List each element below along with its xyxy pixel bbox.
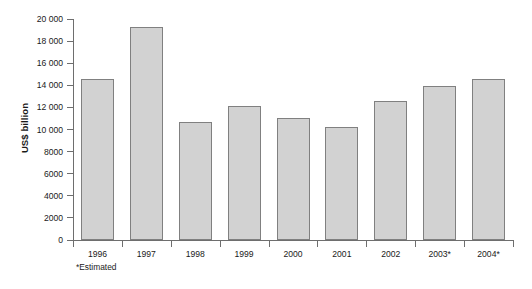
x-axis-tick-mark <box>269 241 270 247</box>
y-axis-tick: 8000 <box>0 146 73 158</box>
bar <box>81 79 114 240</box>
y-axis-tick: 18 000 <box>0 35 73 47</box>
y-axis-tick: 12 000 <box>0 101 73 113</box>
y-axis-tick-label: 12 000 <box>37 101 63 113</box>
y-axis-tick-mark <box>67 19 73 20</box>
x-axis-tick-label: 2003* <box>415 249 464 260</box>
x-axis-end-cap <box>513 240 514 247</box>
y-axis-tick-label: 16 000 <box>37 57 63 69</box>
bar-slot <box>81 19 114 240</box>
y-axis-tick-mark <box>67 63 73 64</box>
bar <box>179 122 212 240</box>
x-axis-tick-mark <box>122 241 123 247</box>
x-axis-tick-label: 2000 <box>269 249 318 260</box>
y-axis-tick-label: 18 000 <box>37 35 63 47</box>
y-axis-tick-mark <box>67 173 73 174</box>
x-axis-tick-label: 2002 <box>366 249 415 260</box>
y-axis-tick-mark <box>67 195 73 196</box>
bar-slot <box>325 19 358 240</box>
x-axis-tick-mark <box>366 241 367 247</box>
y-axis-tick: 2000 <box>0 212 73 224</box>
y-axis-tick-mark <box>67 107 73 108</box>
y-axis-tick-label: 8000 <box>44 146 63 158</box>
bar <box>130 27 163 240</box>
bar <box>277 118 310 240</box>
bar-slot <box>277 19 310 240</box>
bar-slot <box>374 19 407 240</box>
x-axis-tick-mark <box>171 241 172 247</box>
y-axis-tick-mark <box>67 217 73 218</box>
bar-slot <box>423 19 456 240</box>
x-axis-tick-label: 2001 <box>317 249 366 260</box>
y-axis-tick: 4000 <box>0 190 73 202</box>
x-axis-tick-label: 1996 <box>73 249 122 260</box>
bar-slot <box>228 19 261 240</box>
x-axis-tick-mark <box>415 241 416 247</box>
bar <box>472 79 505 240</box>
x-axis-tick-mark <box>220 241 221 247</box>
y-axis-line <box>73 19 74 241</box>
y-axis-tick-label: 4000 <box>44 190 63 202</box>
bar-slot <box>130 19 163 240</box>
y-axis-tick: 20 000 <box>0 13 73 25</box>
y-axis-tick-mark <box>67 151 73 152</box>
footnote-estimated: *Estimated <box>76 262 117 273</box>
y-axis-tick-label: 6000 <box>44 168 63 180</box>
y-axis-tick: 10 000 <box>0 124 73 136</box>
y-axis-tick-label: 0 <box>58 234 63 246</box>
y-axis-tick-label: 20 000 <box>37 13 63 25</box>
y-axis-tick: 14 000 <box>0 79 73 91</box>
y-axis-tick-mark <box>67 85 73 86</box>
y-axis-tick-label: 14 000 <box>37 79 63 91</box>
y-axis-tick-label: 2000 <box>44 212 63 224</box>
bar <box>423 86 456 240</box>
x-axis-tick-label: 1999 <box>220 249 269 260</box>
bar-slot <box>179 19 212 240</box>
x-axis-line <box>73 240 514 241</box>
x-axis-tick-label: 1998 <box>171 249 220 260</box>
bar-chart-figure: US$ billion 0200040006000800010 00012 00… <box>0 0 532 289</box>
x-axis-tick-mark <box>464 241 465 247</box>
x-axis-tick-mark <box>317 241 318 247</box>
x-axis-tick-mark <box>73 241 74 247</box>
x-axis-tick-label: 1997 <box>122 249 171 260</box>
y-axis-tick: 0 <box>0 234 73 246</box>
y-axis-tick-mark <box>67 41 73 42</box>
x-axis-tick-label: 2004* <box>464 249 513 260</box>
bar <box>228 106 261 240</box>
bar-slot <box>472 19 505 240</box>
y-axis-tick-mark <box>67 129 73 130</box>
y-axis-tick: 6000 <box>0 168 73 180</box>
bar <box>374 101 407 240</box>
y-axis-tick-label: 10 000 <box>37 124 63 136</box>
bar <box>325 127 358 240</box>
y-axis-tick: 16 000 <box>0 57 73 69</box>
